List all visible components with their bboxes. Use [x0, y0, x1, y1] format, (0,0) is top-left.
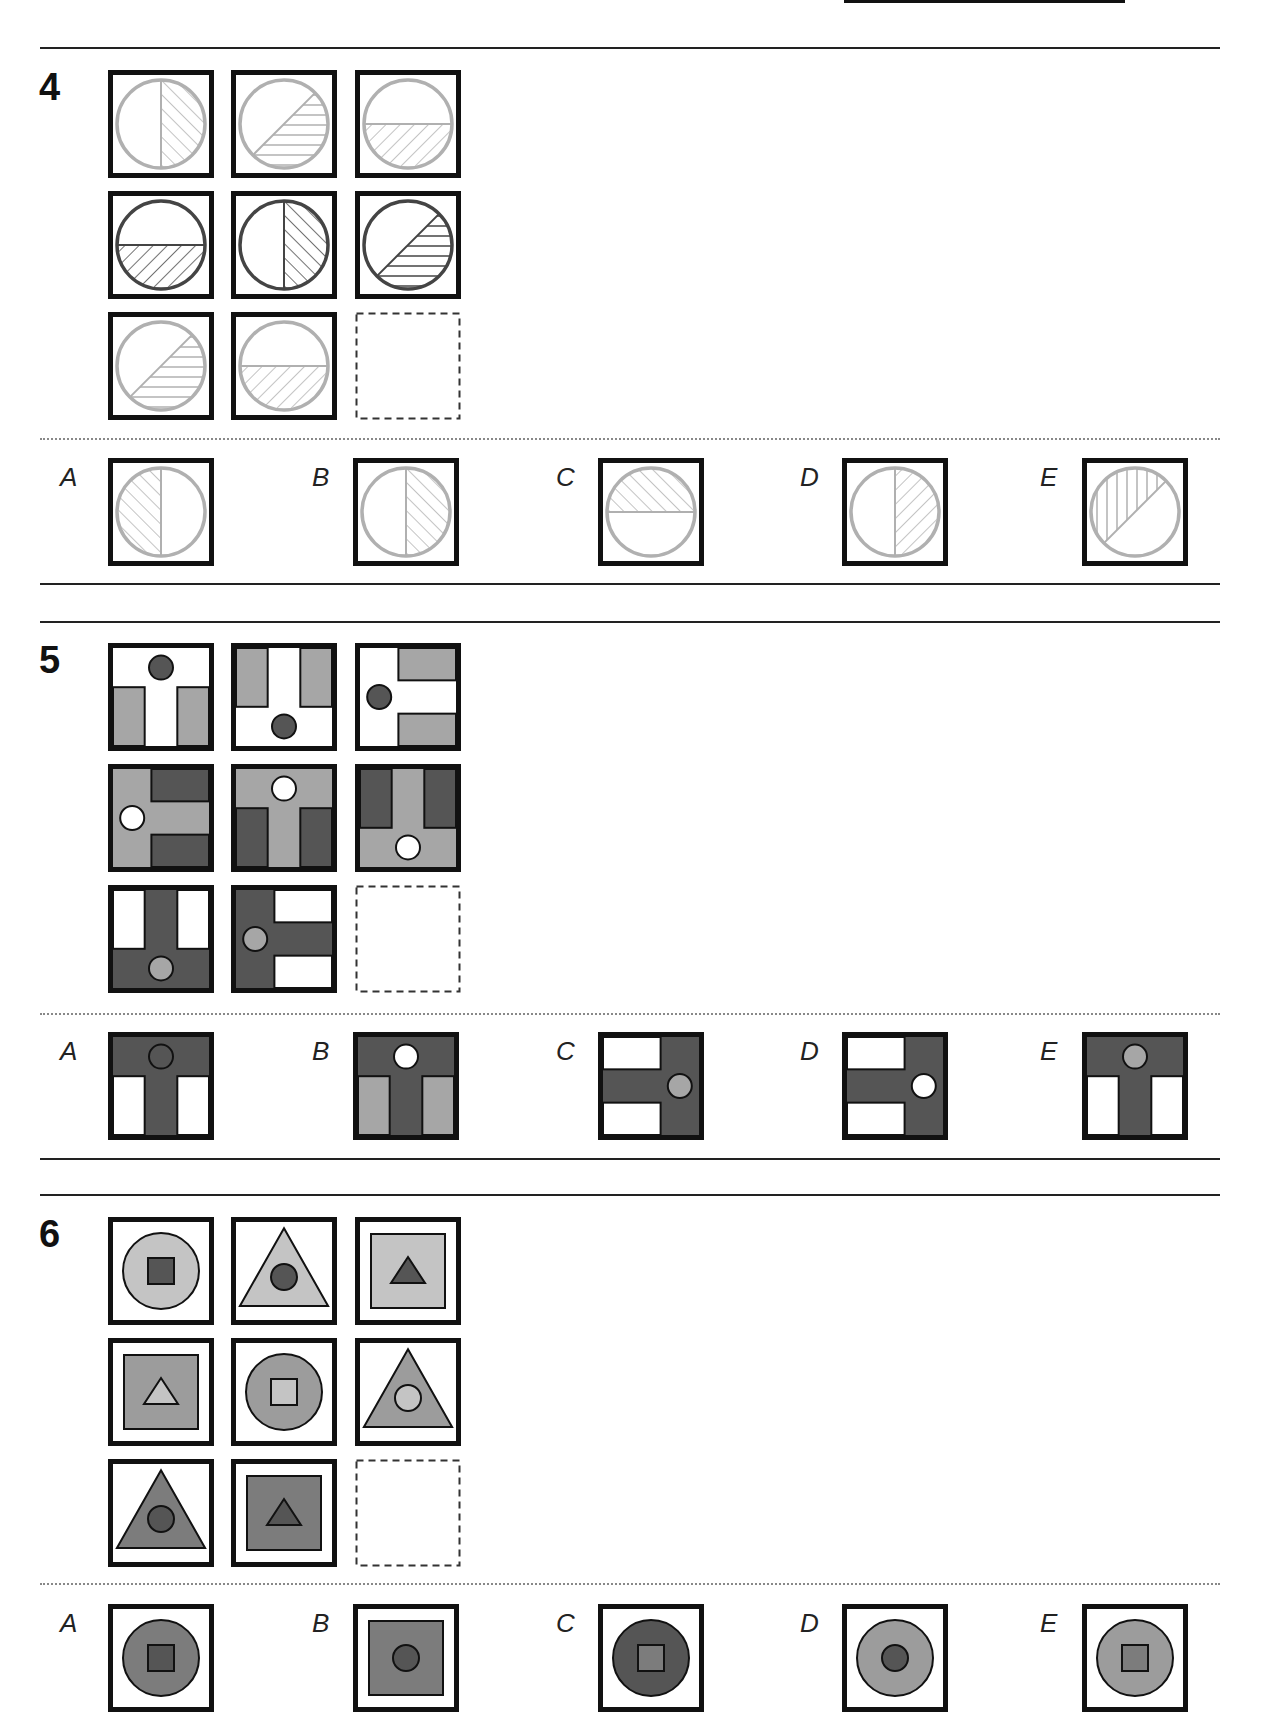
answer-option-c[interactable]: [598, 458, 704, 566]
matrix-cell: [231, 1217, 337, 1325]
matrix-cell: [108, 1338, 214, 1446]
question-number: 5: [39, 641, 60, 679]
answer-option-b[interactable]: [353, 1032, 459, 1140]
option-label-d: D: [800, 1610, 819, 1636]
answer-option-d[interactable]: [842, 458, 948, 566]
answer-option-e[interactable]: [1082, 458, 1188, 566]
option-label-c: C: [556, 1038, 575, 1064]
option-figure-icon: [108, 458, 214, 566]
answer-option-a[interactable]: [108, 1032, 214, 1140]
option-figure-icon: [108, 1032, 214, 1140]
matrix-figure-icon: [108, 764, 214, 872]
option-figure-icon: [842, 1032, 948, 1140]
missing-cell-placeholder[interactable]: [355, 885, 461, 993]
option-label-e: E: [1040, 1038, 1057, 1064]
matrix-cell: [108, 70, 214, 178]
matrix-cell: [355, 1338, 461, 1446]
empty-figure: [355, 312, 461, 420]
matrix-cell: [108, 1217, 214, 1325]
answer-option-d[interactable]: [842, 1604, 948, 1712]
matrix-figure-icon: [108, 70, 214, 178]
option-label-a: A: [60, 1610, 77, 1636]
option-figure-icon: [353, 1604, 459, 1712]
option-figure-icon: [1082, 1032, 1188, 1140]
option-figure-icon: [353, 1032, 459, 1140]
answer-option-b[interactable]: [353, 1604, 459, 1712]
matrix-cell: [231, 1459, 337, 1567]
matrix-figure-icon: [355, 643, 461, 751]
matrix-figure-icon: [108, 191, 214, 299]
option-label-a: A: [60, 1038, 77, 1064]
matrix-figure-icon: [231, 885, 337, 993]
matrix-figure-icon: [108, 643, 214, 751]
matrix-figure-icon: [231, 764, 337, 872]
options-separator: [40, 1583, 1220, 1585]
option-label-c: C: [556, 1610, 575, 1636]
matrix-figure-icon: [231, 1217, 337, 1325]
matrix-cell: [231, 70, 337, 178]
answer-option-c[interactable]: [598, 1604, 704, 1712]
question-number: 6: [39, 1215, 60, 1253]
options-separator: [40, 438, 1220, 440]
matrix-cell: [231, 1338, 337, 1446]
option-label-b: B: [312, 1038, 329, 1064]
option-figure-icon: [353, 458, 459, 566]
matrix-figure-icon: [108, 1338, 214, 1446]
matrix-cell: [355, 70, 461, 178]
option-figure-icon: [598, 1604, 704, 1712]
answer-box-edge: [844, 0, 1125, 3]
option-figure-icon: [108, 1604, 214, 1712]
option-figure-icon: [598, 1032, 704, 1140]
matrix-figure-icon: [231, 643, 337, 751]
matrix-figure-icon: [355, 70, 461, 178]
matrix-cell: [231, 764, 337, 872]
matrix-cell: [231, 885, 337, 993]
section-divider-top: [40, 1194, 1220, 1196]
answer-option-e[interactable]: [1082, 1604, 1188, 1712]
matrix-figure-icon: [231, 191, 337, 299]
matrix-figure-icon: [231, 70, 337, 178]
answer-option-d[interactable]: [842, 1032, 948, 1140]
option-label-e: E: [1040, 464, 1057, 490]
option-label-d: D: [800, 1038, 819, 1064]
option-label-b: B: [312, 1610, 329, 1636]
section-divider-top: [40, 47, 1220, 49]
option-label-b: B: [312, 464, 329, 490]
matrix-figure-icon: [355, 191, 461, 299]
matrix-figure-icon: [231, 312, 337, 420]
option-figure-icon: [842, 1604, 948, 1712]
answer-option-a[interactable]: [108, 1604, 214, 1712]
option-figure-icon: [1082, 458, 1188, 566]
matrix-figure-icon: [108, 885, 214, 993]
matrix-cell: [231, 643, 337, 751]
option-label-d: D: [800, 464, 819, 490]
option-figure-icon: [1082, 1604, 1188, 1712]
matrix-figure-icon: [108, 1217, 214, 1325]
answer-option-a[interactable]: [108, 458, 214, 566]
missing-cell-placeholder[interactable]: [355, 312, 461, 420]
options-separator: [40, 1013, 1220, 1015]
matrix-figure-icon: [231, 1338, 337, 1446]
option-label-c: C: [556, 464, 575, 490]
answer-option-e[interactable]: [1082, 1032, 1188, 1140]
option-label-e: E: [1040, 1610, 1057, 1636]
matrix-cell: [355, 643, 461, 751]
matrix-cell: [108, 191, 214, 299]
answer-option-c[interactable]: [598, 1032, 704, 1140]
matrix-figure-icon: [355, 1338, 461, 1446]
matrix-cell: [108, 643, 214, 751]
matrix-cell: [355, 1217, 461, 1325]
matrix-cell: [108, 764, 214, 872]
section-divider-top: [40, 621, 1220, 623]
question-number: 4: [39, 68, 60, 106]
empty-figure: [355, 885, 461, 993]
matrix-figure-icon: [108, 312, 214, 420]
matrix-cell: [355, 191, 461, 299]
answer-option-b[interactable]: [353, 458, 459, 566]
missing-cell-placeholder[interactable]: [355, 1459, 461, 1567]
matrix-cell: [231, 191, 337, 299]
matrix-cell: [108, 312, 214, 420]
matrix-cell: [108, 885, 214, 993]
empty-figure: [355, 1459, 461, 1567]
matrix-figure-icon: [231, 1459, 337, 1567]
